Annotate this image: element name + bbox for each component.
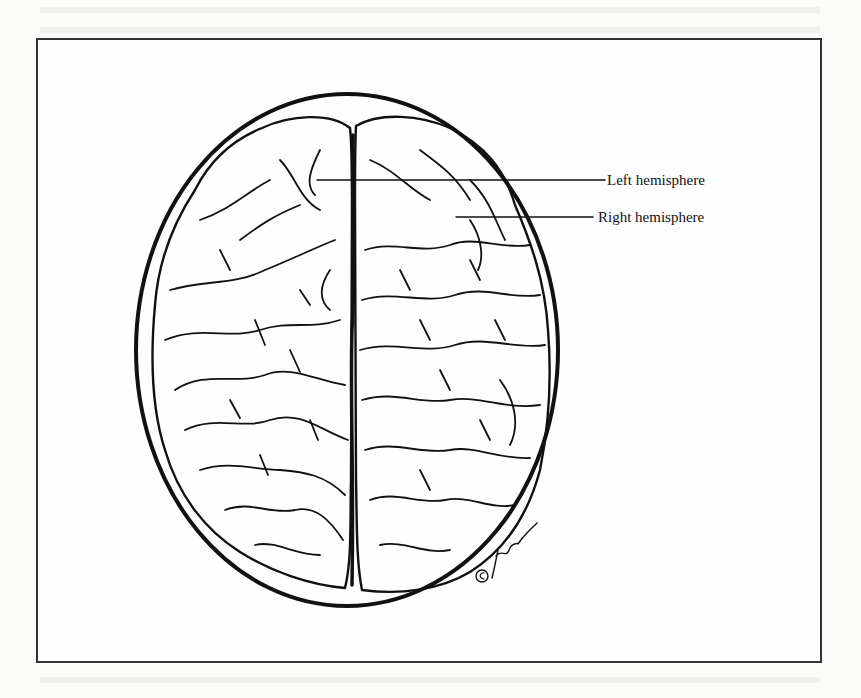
right-hemisphere-outline [355,117,550,592]
label-right-hemisphere: Right hemisphere [598,210,704,225]
skull-outline [136,94,558,606]
left-sulci [165,150,348,555]
longitudinal-fissure [351,135,353,585]
artist-signature [492,523,537,578]
copyright-icon [476,570,488,582]
brain-illustration [0,0,861,698]
label-left-hemisphere: Left hemisphere [607,173,705,188]
